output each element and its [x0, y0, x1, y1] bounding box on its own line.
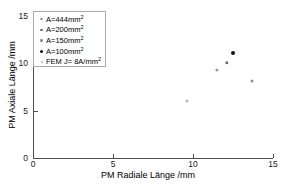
data-point: [251, 79, 254, 82]
scatter-chart-figure: 051015 051015 PM Radiale Länge /mm PM Ax…: [0, 0, 296, 190]
x-axis-label: PM Radiale Länge /mm: [0, 170, 296, 180]
legend-item[interactable]: A=444mm2: [37, 14, 102, 25]
data-point: [215, 68, 218, 71]
x-tick-label: 15: [268, 159, 277, 169]
y-tick-mark: [34, 111, 38, 112]
data-point: [185, 100, 188, 103]
legend-label-superscript: 2: [80, 24, 83, 30]
legend-item-label: A=444mm2: [46, 15, 83, 24]
legend-item-label: FEM J= 8A/mm2: [46, 57, 101, 66]
legend-item[interactable]: A=200mm2: [37, 25, 102, 36]
legend-marker-cell: [37, 29, 46, 31]
x-tick-mark: [113, 154, 114, 158]
y-tick-label: 10: [19, 58, 28, 68]
y-tick-label: 0: [23, 153, 28, 163]
legend-item-label: A=200mm2: [46, 25, 83, 34]
x-tick-label: 10: [188, 159, 197, 169]
legend-label-superscript: 2: [80, 34, 83, 40]
y-tick-label: 15: [19, 11, 28, 21]
legend-item-label: A=100mm2: [46, 47, 83, 56]
legend-marker-cell: [37, 18, 46, 20]
legend-item[interactable]: A=150mm2: [37, 35, 102, 46]
data-point: [225, 61, 228, 64]
x-axis-line: [33, 158, 273, 159]
y-axis-label: PM Axiale Länge /mm: [7, 20, 17, 150]
legend-marker-dot-icon: [40, 18, 42, 20]
legend-marker-dot-icon: [40, 50, 43, 53]
legend-label-superscript: 2: [80, 45, 83, 51]
legend-marker-dot-icon: [41, 61, 43, 63]
data-point: [231, 51, 235, 55]
legend-marker-cell: [37, 39, 46, 42]
x-tick-mark: [273, 154, 274, 158]
legend-label-superscript: 2: [98, 56, 101, 62]
y-tick-label: 5: [23, 106, 28, 116]
x-tick-label: 5: [111, 159, 116, 169]
legend-marker-cell: [37, 61, 46, 63]
x-tick-label: 0: [31, 159, 36, 169]
legend-item[interactable]: A=100mm2: [37, 46, 102, 57]
legend-marker-dot-icon: [40, 39, 43, 42]
plot-area: 051015 051015 PM Radiale Länge /mm PM Ax…: [0, 0, 296, 190]
legend-marker-cell: [37, 50, 46, 53]
legend-item[interactable]: FEM J= 8A/mm2: [37, 56, 102, 67]
x-tick-mark: [193, 154, 194, 158]
legend-label-superscript: 2: [80, 13, 83, 19]
legend-item-label: A=150mm2: [46, 36, 83, 45]
legend: A=444mm2A=200mm2A=150mm2A=100mm2FEM J= 8…: [33, 11, 106, 67]
legend-marker-dot-icon: [40, 29, 42, 31]
y-tick-mark: [34, 158, 38, 159]
